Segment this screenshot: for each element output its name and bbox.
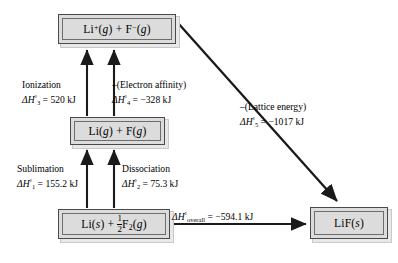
step-name-electron-affinity: –(Electron affinity) <box>112 79 186 92</box>
step-enthalpy-overall: ΔH°overall = −594.1 kJ <box>172 209 253 226</box>
step-name-lattice-energy: –(Lattice energy) <box>240 101 306 114</box>
species-box-atoms: Li(g) + F(g) <box>70 117 165 145</box>
species-box-solid: LiF(s) <box>310 207 388 239</box>
born-haber-diagram: Li+(g) + F−(g) Li(g) + F(g) Li(s) + 12F2… <box>0 0 398 263</box>
step-enthalpy-electron-affinity: ΔH°4 = −328 kJ <box>112 92 186 109</box>
step-enthalpy-ionization: ΔH°3 = 520 kJ <box>22 92 76 109</box>
step-enthalpy-sublimation: ΔH°1 = 155.2 kJ <box>17 176 78 193</box>
species-box-ions: Li+(g) + F−(g) <box>58 14 176 44</box>
step-label-overall: ΔH°overall = −594.1 kJ <box>172 209 253 226</box>
step-name-dissociation: Dissociation <box>122 163 178 176</box>
species-label-solid: LiF(s) <box>334 217 364 229</box>
step-enthalpy-dissociation: ΔH°2 = 75.3 kJ <box>122 176 178 193</box>
step-label-lattice-energy: –(Lattice energy) ΔH°5 = −1017 kJ <box>240 101 306 131</box>
step-enthalpy-lattice-energy: ΔH°5 = −1017 kJ <box>240 114 306 131</box>
species-label-ions: Li+(g) + F−(g) <box>83 23 150 35</box>
step-label-ionization: Ionization ΔH°3 = 520 kJ <box>22 79 76 109</box>
species-label-elements: Li(s) + 12F2(g) <box>81 214 147 233</box>
step-label-dissociation: Dissociation ΔH°2 = 75.3 kJ <box>122 163 178 193</box>
step-label-electron-affinity: –(Electron affinity) ΔH°4 = −328 kJ <box>112 79 186 109</box>
step-label-sublimation: Sublimation ΔH°1 = 155.2 kJ <box>17 163 78 193</box>
species-label-atoms: Li(g) + F(g) <box>88 125 146 137</box>
step-name-ionization: Ionization <box>22 79 76 92</box>
species-box-elements: Li(s) + 12F2(g) <box>58 209 170 239</box>
step-name-sublimation: Sublimation <box>17 163 78 176</box>
